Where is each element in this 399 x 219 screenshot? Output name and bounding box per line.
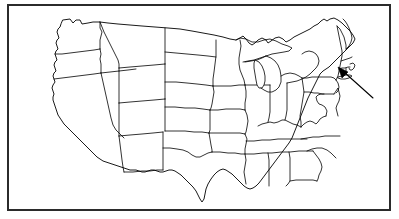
border-sc-nc — [307, 148, 336, 158]
border-al-ga — [286, 152, 290, 186]
border-ga-sc — [313, 151, 322, 181]
pointer-arrow-group — [338, 67, 373, 98]
national-outline — [52, 18, 355, 202]
us-outline-map — [0, 0, 399, 219]
border-nc-va — [301, 136, 340, 139]
pointer-arrow-shaft — [344, 72, 373, 98]
border-vtnh-ma — [341, 57, 352, 61]
border-ga-fl — [290, 180, 317, 181]
figure-root: Outline map of the contiguous United Sta… — [0, 0, 399, 219]
border-va-wv — [301, 116, 326, 127]
national-outline-group — [52, 18, 355, 202]
cape-cod-outline — [349, 63, 355, 70]
border-wv-md-pa — [316, 94, 327, 116]
